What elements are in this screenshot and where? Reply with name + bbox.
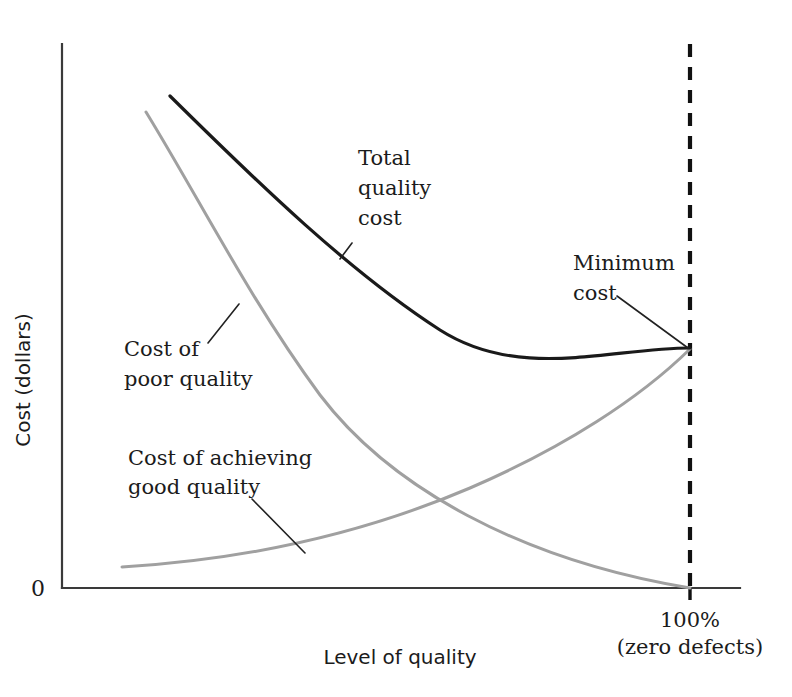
annotation-cost-of-achieving-good-quality: Cost of achieving good quality (128, 446, 312, 499)
leader-line-total-quality-cost (340, 243, 352, 259)
chart-canvas: Total quality cost Cost of poor quality … (0, 0, 792, 697)
annotation-minimum-cost-line2: cost (573, 281, 617, 305)
leader-line-cost-of-achieving-good-quality (252, 499, 305, 553)
annotation-minimum-cost-line1: Minimum (573, 251, 675, 275)
annotation-cost-of-poor-quality-line2: poor quality (124, 367, 253, 391)
y-axis-title: Cost (dollars) (11, 313, 35, 446)
leader-line-minimum-cost (617, 296, 688, 348)
annotation-total-quality-cost-line2: quality (358, 176, 431, 200)
x-tick-label-sublabel: (zero defects) (617, 635, 763, 659)
annotation-total-quality-cost-line3: cost (358, 206, 402, 230)
quality-cost-chart: Total quality cost Cost of poor quality … (0, 0, 792, 697)
leader-line-cost-of-poor-quality (208, 304, 239, 343)
series-total-quality-cost (170, 96, 690, 359)
annotation-cost-of-achieving-good-quality-line1: Cost of achieving (128, 446, 312, 470)
axes-group (62, 44, 740, 588)
annotation-cost-of-achieving-good-quality-line2: good quality (128, 475, 260, 499)
annotation-cost-of-poor-quality: Cost of poor quality (124, 337, 253, 391)
annotation-cost-of-poor-quality-line1: Cost of (124, 337, 201, 361)
annotation-total-quality-cost: Total quality cost (358, 146, 431, 230)
x-tick-label-percent: 100% (660, 608, 720, 632)
annotation-total-quality-cost-line1: Total (358, 146, 411, 170)
x-axis-title: Level of quality (323, 645, 476, 669)
y-axis-origin-label: 0 (31, 576, 45, 601)
annotation-minimum-cost: Minimum cost (573, 251, 675, 305)
